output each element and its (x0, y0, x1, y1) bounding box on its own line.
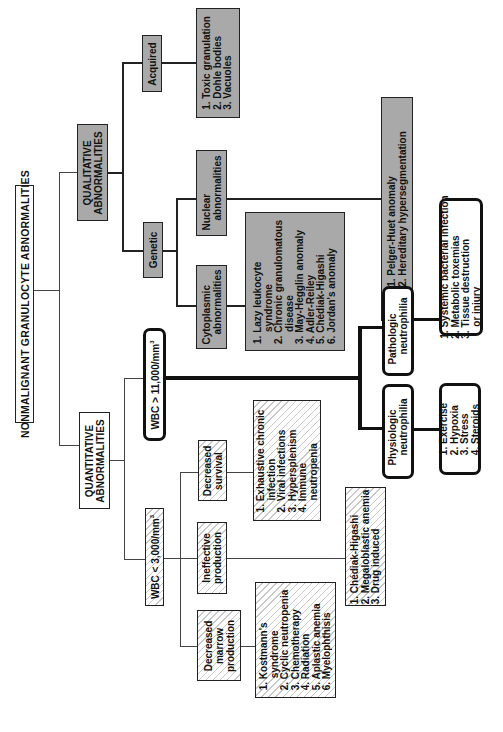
wbc-low-box: WBC < 3,000/mm3 (145, 508, 164, 606)
decreased-marrow-label-line2: marrow (214, 619, 225, 671)
list-item: 3. Chemotherapy (290, 590, 301, 691)
list-item: 5. Chédiak-Higashi (316, 220, 327, 344)
qualitative-box: QUALITATIVE ABNORMALITIES (77, 124, 108, 221)
list-item: 2. Megaloblastic anemia (360, 489, 371, 604)
connector-wbc-low-vertical (180, 472, 181, 647)
list-item: 2. Cyclic neutropenia (280, 590, 291, 691)
list-item: neutropenia (308, 409, 319, 512)
cytoplasmic-label-line2: abnormalities (212, 269, 223, 344)
connector-to-acquired (122, 62, 142, 64)
decreased-marrow-list: 1. Kostmann's syndrome 2. Cyclic neutrop… (259, 590, 333, 691)
connector-physiologic-list (413, 428, 440, 431)
ineffective-production-label-line1: Ineffective (201, 532, 212, 584)
connector-genetic-out (162, 250, 177, 252)
acquired-list-box: 1. Toxic granulation 2. Dohle bodies 3. … (196, 8, 240, 118)
ineffective-production-list-box: 1. Chédiak-Higashi 2. Megaloblastic anem… (345, 487, 386, 606)
connector-genetic-vertical (176, 198, 178, 306)
pathologic-label-line2: neutrophilia (398, 297, 409, 364)
acquired-list: 1. Toxic granulation 2. Dohle bodies 3. … (202, 16, 234, 110)
wbc-low-label: WBC < 3,000/mm (149, 518, 160, 599)
decreased-survival-label-line1: Decreased (202, 445, 213, 496)
list-item: syndrome (269, 590, 280, 691)
connector-root (33, 290, 60, 291)
list-item: 1. Toxic granulation (202, 16, 213, 110)
list-item: 1. Lazy leukocyte (253, 220, 264, 344)
pathologic-label-line1: Pathologic (387, 297, 398, 364)
connector-to-genetic (122, 250, 143, 252)
ineffective-production-list: 1. Chédiak-Higashi 2. Megaloblastic anem… (350, 489, 382, 604)
wbc-low-label-sup: 3 (149, 515, 155, 518)
pathologic-list-box: 1. Systemic bacterial infection 2. Metab… (439, 198, 483, 336)
decreased-marrow-box: Decreased marrow production (197, 610, 241, 681)
connector-to-pathologic (358, 326, 383, 329)
pathologic-list: 1. Systemic bacterial infection 2. Metab… (440, 195, 482, 338)
connector-to-decreased-marrow (180, 646, 198, 647)
connector-qualitative-vertical (122, 62, 124, 250)
connector-to-wbc-low (124, 559, 145, 560)
list-item: 1. Chédiak-Higashi (350, 489, 361, 604)
list-item: 1. Kostmann's (259, 590, 270, 691)
connector-to-quantitative (59, 445, 79, 446)
list-item: 2. Hereditary hypersegmentation (397, 131, 408, 287)
list-item: 3. Vacuoles (223, 16, 234, 110)
list-item: 4. Radiation (301, 590, 312, 691)
root-title-box: NONMALIGNANT GRANULOCYTE ABNORMALITIES (15, 185, 34, 423)
connector-nuclear-list (227, 198, 381, 200)
list-item: 4. Immune (298, 409, 309, 512)
list-item: 4. Steroids (471, 403, 482, 455)
connector-acquired-list (161, 62, 196, 64)
decreased-marrow-label-line3: production (225, 619, 236, 671)
ineffective-production-label-line2: production (212, 532, 223, 584)
list-item: 6. Myelophthisis (322, 590, 333, 691)
connector-to-decreased-survival (180, 472, 198, 473)
decreased-marrow-list-box: 1. Kostmann's syndrome 2. Cyclic neutrop… (255, 582, 336, 698)
cytoplasmic-list: 1. Lazy leukocyte syndrome 2. Chronic gr… (253, 220, 337, 344)
list-item: 3. May-Hegglin anomaly (295, 220, 306, 344)
physiologic-list: 1. Exercise 2. Hypoxia 3. Stress 4. Ster… (439, 403, 481, 455)
decreased-survival-list-box: 1. Exhaustive chronic infection 2. Viral… (253, 400, 321, 521)
list-item: 2. Chronic granulomatous (274, 220, 285, 344)
quantitative-title-line2: ABNORMALITIES (95, 419, 106, 502)
cytoplasmic-box: Cytoplasmic abnormalities (196, 265, 227, 349)
cytoplasmic-label-line1: Cytoplasmic (201, 269, 212, 344)
connector-to-wbc-high (124, 378, 145, 379)
connector-cytoplasmic-list (226, 305, 245, 307)
cytoplasmic-list-box: 1. Lazy leukocyte syndrome 2. Chronic gr… (245, 212, 345, 351)
decreased-survival-list: 1. Exhaustive chronic infection 2. Viral… (256, 409, 319, 512)
connector-to-cytoplasmic (176, 305, 196, 307)
nuclear-label-line2: abnormalities (212, 155, 223, 230)
genetic-box: Genetic (143, 222, 163, 278)
connector-quantitative-vertical (124, 378, 125, 560)
ineffective-production-box: Ineffective production (197, 522, 227, 594)
physiologic-label-line1: Physiologic (387, 398, 398, 465)
quantitative-box: QUANTITATIVE ABNORMALITIES (79, 412, 110, 509)
list-item: 2. Viral infections (277, 409, 288, 512)
decreased-survival-box: Decreased survival (198, 440, 227, 501)
nuclear-box: Nuclear abnormalities (196, 150, 227, 236)
list-item: 3. Stress (460, 403, 471, 455)
connector-pathologic-list (413, 318, 440, 321)
connector-decreased-survival-list (226, 472, 253, 473)
wbc-high-label: WBC > 11,000/mm (149, 343, 160, 429)
connector-wbc-high-out (165, 376, 362, 380)
connector-ineffective-list (226, 558, 345, 559)
root-title: NONMALIGNANT GRANULOCYTE ABNORMALITIES (19, 170, 30, 438)
qualitative-title-line1: QUALITATIVE (82, 131, 93, 214)
list-item: 1. Pelger-Huet anomaly (387, 131, 398, 287)
physiologic-list-box: 1. Exercise 2. Hypoxia 3. Stress 4. Ster… (439, 383, 481, 475)
connector-to-qualitative (59, 172, 77, 173)
connector-to-nuclear (176, 198, 196, 200)
list-item: or injury (472, 195, 483, 338)
connector-neutrophilia-vertical (358, 326, 362, 430)
nuclear-label-line1: Nuclear (201, 155, 212, 230)
qualitative-title-line2: ABNORMALITIES (93, 131, 104, 214)
list-item: 6. Jordan's anomaly (327, 220, 338, 344)
list-item: 3. Tissue destruction (461, 195, 472, 338)
quantitative-title-line1: QUANTITATIVE (84, 419, 95, 502)
acquired-label: Acquired (147, 42, 158, 85)
genetic-label: Genetic (148, 232, 159, 269)
decreased-marrow-label-line1: Decreased (203, 619, 214, 671)
list-item: 1. Exhaustive chronic (256, 409, 267, 512)
connector-qualitative-out (107, 172, 123, 174)
decreased-survival-label-line2: survival (213, 445, 224, 496)
